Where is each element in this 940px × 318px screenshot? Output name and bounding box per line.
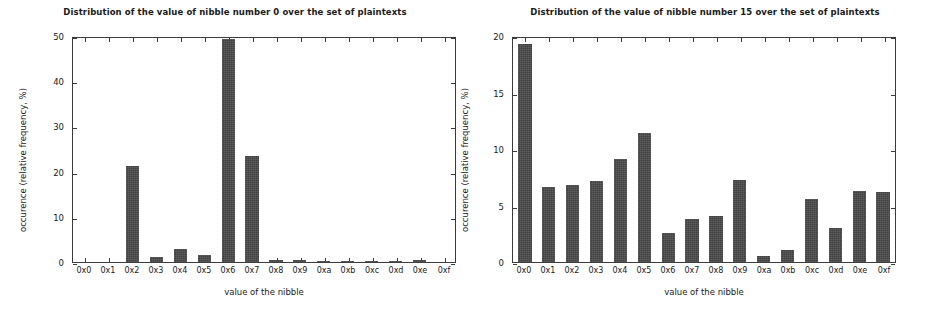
bar-0x2 [126,166,139,262]
bar-0xd [389,261,402,262]
bar-0xe [853,191,866,262]
x-tick-label: 0x4 [168,266,192,282]
y-tick-label: 40 [53,77,64,87]
y-tick-label: 20 [493,32,504,42]
x-tick-label: 0x0 [72,266,96,282]
x-tick-label: 0xb [336,266,360,282]
bar-cell [121,38,145,262]
x-tick-label: 0xb [776,266,800,282]
bar-0xa [317,261,330,262]
bar-0xc [365,261,378,262]
x-axis-title-right: value of the nibble [512,287,896,297]
y-tick-mark-right [451,264,455,265]
bar-cell [847,38,871,262]
bar-0xb [781,250,794,262]
y-tick-label: 10 [53,213,64,223]
x-tick-label: 0x5 [192,266,216,282]
bar-0x2 [566,185,579,262]
bar-cell [336,38,360,262]
bar-cell [240,38,264,262]
bar-0x7 [245,156,258,262]
y-tick-label: 0 [499,258,504,268]
bar-cell [73,38,97,262]
bar-0x1 [542,187,555,262]
x-tick-label: 0x7 [680,266,704,282]
y-axis-tick-labels-left: 01020304050 [0,0,70,318]
x-tick-label: 0xa [312,266,336,282]
x-tick-label: 0x2 [120,266,144,282]
y-tick-mark [73,264,77,265]
bar-series-right [513,38,895,262]
bar-cell [609,38,633,262]
bar-series-left [73,38,455,262]
bar-cell [383,38,407,262]
x-axis-title-left: value of the nibble [72,287,456,297]
x-tick-label: 0xf [432,266,456,282]
bar-0x6 [662,233,675,262]
x-tick-label: 0x3 [584,266,608,282]
bar-cell [431,38,455,262]
x-tick-label: 0x9 [728,266,752,282]
bar-cell [537,38,561,262]
plot-area-right [512,37,896,263]
bar-cell [800,38,824,262]
bar-cell [192,38,216,262]
x-tick-label: 0x1 [96,266,120,282]
bar-0xd [829,228,842,262]
plot-area-left [72,37,456,263]
bar-cell [823,38,847,262]
chart-title-left: Distribution of the value of nibble numb… [0,7,470,17]
bar-cell [871,38,895,262]
bar-0x0 [518,44,531,262]
y-tick-mark-right [891,264,895,265]
bar-0x4 [614,159,627,262]
x-tick-label: 0xc [800,266,824,282]
y-tick-label: 10 [493,145,504,155]
y-tick-label: 5 [499,202,504,212]
bar-cell [585,38,609,262]
x-tick-label: 0x7 [240,266,264,282]
y-tick-label: 15 [493,89,504,99]
bar-0x5 [638,133,651,262]
bar-0xb [341,261,354,262]
x-tick-label: 0x1 [536,266,560,282]
bar-cell [145,38,169,262]
bar-cell [216,38,240,262]
bar-0xe [413,260,426,262]
bar-0x9 [293,260,306,262]
x-tick-label: 0xf [872,266,896,282]
bar-0xc [805,199,818,262]
x-tick-label: 0xd [824,266,848,282]
x-tick-label: 0x8 [264,266,288,282]
bar-cell [632,38,656,262]
bar-0x4 [174,249,187,262]
bar-cell [776,38,800,262]
x-tick-label: 0x6 [656,266,680,282]
bar-cell [680,38,704,262]
bar-cell [561,38,585,262]
y-axis-tick-labels-right: 05101520 [470,0,510,318]
x-tick-label: 0xe [408,266,432,282]
bar-cell [752,38,776,262]
x-tick-label: 0x4 [608,266,632,282]
chart-title-right: Distribution of the value of nibble numb… [470,7,940,17]
bar-cell [513,38,537,262]
x-tick-label: 0xe [848,266,872,282]
bar-cell [264,38,288,262]
y-tick-label: 20 [53,168,64,178]
bar-cell [656,38,680,262]
bar-cell [288,38,312,262]
bar-cell [704,38,728,262]
bar-0xa [757,256,770,262]
bar-0x3 [590,181,603,262]
x-axis-tick-labels-right: 0x00x10x20x30x40x50x60x70x80x90xa0xb0xc0… [512,266,896,282]
bar-0x3 [150,257,163,262]
x-tick-label: 0x8 [704,266,728,282]
chart-panel-nibble-0: Distribution of the value of nibble numb… [0,0,470,318]
y-tick-label: 50 [53,32,64,42]
x-tick-label: 0xc [360,266,384,282]
figure-two-bar-charts: Distribution of the value of nibble numb… [0,0,940,318]
bar-cell [169,38,193,262]
bar-0x7 [685,219,698,262]
x-axis-tick-labels-left: 0x00x10x20x30x40x50x60x70x80x90xa0xb0xc0… [72,266,456,282]
